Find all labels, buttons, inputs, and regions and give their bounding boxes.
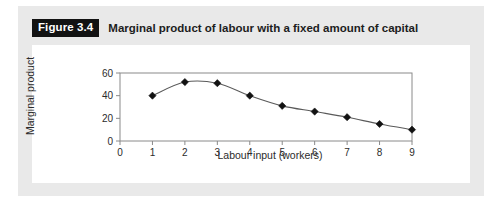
y-tick-label: 20 <box>102 113 114 124</box>
x-tick-label: 5 <box>279 147 285 158</box>
x-tick-label: 0 <box>117 147 123 158</box>
x-tick-label: 1 <box>150 147 156 158</box>
y-tick-label: 40 <box>102 90 114 101</box>
figure-title: Marginal product of labour with a fixed … <box>108 22 418 34</box>
chart-plot: 02040600123456789 <box>32 45 470 183</box>
y-tick-label: 0 <box>107 136 113 147</box>
x-tick-label: 7 <box>344 147 350 158</box>
x-tick-label: 6 <box>312 147 318 158</box>
x-tick-label: 3 <box>215 147 221 158</box>
x-tick-label: 9 <box>409 147 415 158</box>
figure-header: Figure 3.4 Marginal product of labour wi… <box>32 18 418 38</box>
figure-container: Figure 3.4 Marginal product of labour wi… <box>0 0 502 210</box>
x-tick-label: 2 <box>182 147 188 158</box>
y-tick-label: 60 <box>102 68 114 79</box>
figure-number-badge: Figure 3.4 <box>32 19 99 37</box>
plot-panel: Marginal product Labour input (workers) … <box>32 45 470 183</box>
x-tick-label: 4 <box>247 147 253 158</box>
plot-area-background <box>120 73 412 141</box>
figure-card: Figure 3.4 Marginal product of labour wi… <box>18 6 484 196</box>
x-tick-label: 8 <box>377 147 383 158</box>
